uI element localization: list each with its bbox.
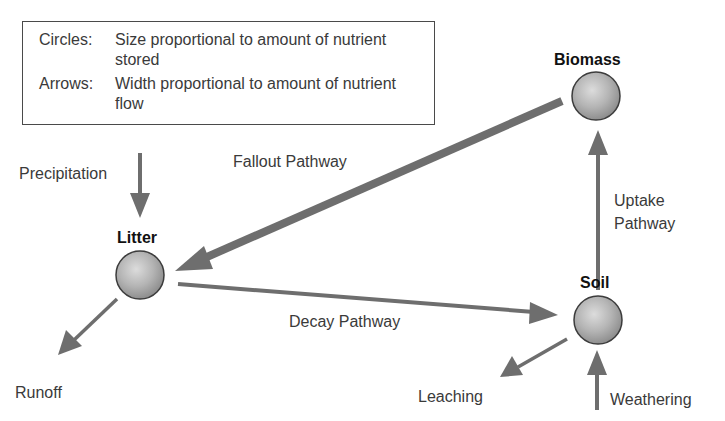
- weathering-arrow: [587, 350, 607, 410]
- decay-label: Decay Pathway: [289, 312, 400, 331]
- precipitation-label: Precipitation: [19, 164, 107, 183]
- precipitation-arrow: [130, 153, 150, 218]
- runoff-label: Runoff: [15, 383, 62, 402]
- litter-circle: [116, 251, 164, 299]
- legend-arrows: Arrows:Width proportional to amount of n…: [39, 74, 415, 114]
- legend-circles-key: Circles:: [39, 30, 115, 50]
- leaching-arrow: [500, 339, 567, 377]
- soil-label: Soil: [580, 274, 609, 292]
- legend-arrows-key: Arrows:: [39, 74, 115, 94]
- weathering-label: Weathering: [610, 390, 692, 409]
- uptake-label-line1: Uptake: [614, 191, 665, 210]
- biomass-circle: [572, 72, 620, 120]
- leaching-label: Leaching: [418, 387, 483, 406]
- fallout-arrow: [175, 101, 562, 271]
- fallout-label: Fallout Pathway: [233, 152, 347, 171]
- uptake-label-line2: Pathway: [614, 214, 675, 233]
- legend-circles: Circles:Size proportional to amount of n…: [39, 30, 415, 70]
- biomass-label: Biomass: [554, 51, 621, 69]
- runoff-arrow: [58, 299, 117, 355]
- legend-arrows-desc: Width proportional to amount of nutrient…: [115, 74, 415, 114]
- litter-label: Litter: [117, 229, 157, 247]
- legend-circles-desc: Size proportional to amount of nutrient …: [115, 30, 415, 70]
- uptake-arrow: [588, 130, 608, 290]
- soil-circle: [574, 296, 622, 344]
- legend-box: Circles:Size proportional to amount of n…: [22, 21, 435, 125]
